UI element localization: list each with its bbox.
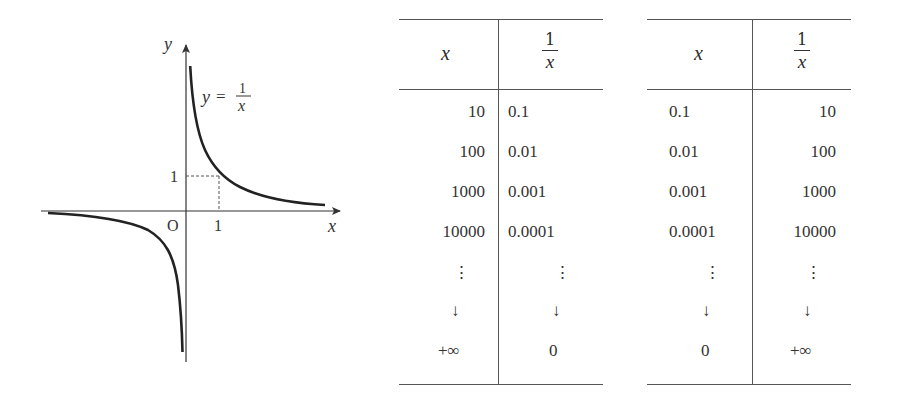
function-num: 1 <box>239 81 246 96</box>
table-row: 0.001 1000 <box>647 182 851 202</box>
table-body: 0.1 10 0.01 100 0.001 1000 0.0001 10000 … <box>647 90 851 314</box>
cell-reciprocal: 0.01 <box>508 142 538 162</box>
header-reciprocal: 1 x <box>792 31 812 72</box>
table-row: 1000 0.001 <box>399 182 603 202</box>
table-row: 0.1 10 <box>647 102 851 122</box>
cell-reciprocal: 100 <box>811 142 837 162</box>
header-reciprocal: 1 x <box>540 31 560 72</box>
table-header: x 1 x <box>399 20 603 90</box>
y-axis-label: y <box>162 34 172 54</box>
cell-x: 10000 <box>443 222 486 242</box>
table-row: ↓ ↓ <box>399 301 603 321</box>
table-row: 0.01 100 <box>647 142 851 162</box>
cell-x: 0.01 <box>669 142 699 162</box>
table-row: 10 0.1 <box>399 102 603 122</box>
cell-x: ↓ <box>702 301 711 321</box>
cell-x: ⋮ <box>453 262 470 283</box>
cell-x: 1000 <box>451 182 485 202</box>
cell-x: 0.001 <box>669 182 707 202</box>
table-row: ⋮ ⋮ <box>647 262 851 282</box>
header-reciprocal-den: x <box>792 52 812 72</box>
cell-x: 0.1 <box>669 102 690 122</box>
hyperbola-branch-negative <box>48 213 183 352</box>
table-body: 10 0.1 100 0.01 1000 0.001 10000 0.0001 … <box>399 90 603 314</box>
cell-reciprocal: 10 <box>819 102 836 122</box>
table-row: 0.0001 10000 <box>647 222 851 242</box>
header-reciprocal-den: x <box>540 52 560 72</box>
origin-label: O <box>167 217 179 234</box>
cell-x: ⋮ <box>704 262 721 283</box>
cell-x: 100 <box>460 142 486 162</box>
table-row: 10000 0.0001 <box>399 222 603 242</box>
header-x: x <box>694 42 703 65</box>
table-header: x 1 x <box>647 20 851 90</box>
header-reciprocal-num: 1 <box>792 31 812 49</box>
table-row: 100 0.01 <box>399 142 603 162</box>
hyperbola-branch-positive <box>190 66 325 205</box>
cell-reciprocal: 1000 <box>802 182 836 202</box>
cell-reciprocal: 0.0001 <box>508 222 555 242</box>
table-row: 0 +∞ <box>647 341 851 361</box>
cell-reciprocal: 0.1 <box>508 102 529 122</box>
function-label: y = 1 x <box>200 81 251 114</box>
cell-reciprocal: +∞ <box>790 341 812 361</box>
hyperbola-graph: y x O 1 1 y = 1 x <box>0 0 370 404</box>
function-eq: = <box>216 87 226 106</box>
cell-x: ↓ <box>451 301 460 321</box>
function-lhs: y <box>200 87 210 107</box>
table-row: +∞ 0 <box>399 341 603 361</box>
cell-reciprocal: ⋮ <box>805 262 822 283</box>
table-row: ⋮ ⋮ <box>399 262 603 282</box>
header-x: x <box>441 42 450 65</box>
table-x-to-reciprocal: x 1 x 10 0.1 100 0.01 1000 0.001 10000 0… <box>399 19 603 385</box>
cell-reciprocal: 0 <box>549 341 558 361</box>
x-tick-label-1: 1 <box>214 217 222 234</box>
y-tick-label-1: 1 <box>170 168 178 185</box>
x-axis-label: x <box>327 216 336 236</box>
table-row: ↓ ↓ <box>647 301 851 321</box>
cell-reciprocal: ↓ <box>803 301 812 321</box>
cell-x: 0 <box>701 341 710 361</box>
cell-x: 10 <box>468 102 485 122</box>
cell-reciprocal: ⋮ <box>554 262 571 283</box>
function-den: x <box>237 97 245 114</box>
cell-reciprocal: 0.001 <box>508 182 546 202</box>
cell-reciprocal: 10000 <box>794 222 837 242</box>
table-reciprocal-to-x: x 1 x 0.1 10 0.01 100 0.001 1000 0.0001 … <box>647 19 851 385</box>
cell-reciprocal: ↓ <box>552 301 561 321</box>
cell-x: 0.0001 <box>669 222 716 242</box>
header-reciprocal-num: 1 <box>540 31 560 49</box>
cell-x: +∞ <box>438 341 460 361</box>
